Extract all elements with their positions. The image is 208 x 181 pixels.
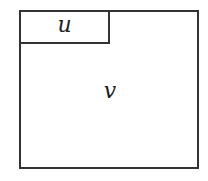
label-u: u bbox=[57, 14, 71, 36]
inner-region-u: u bbox=[19, 10, 110, 44]
label-v: v bbox=[100, 80, 120, 102]
